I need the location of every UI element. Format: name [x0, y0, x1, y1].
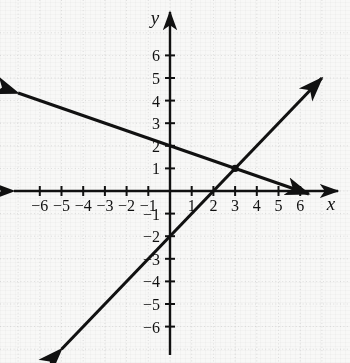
x-tick-label: 4	[253, 197, 261, 214]
x-tick-label: 5	[275, 197, 283, 214]
y-tick-label: 3	[152, 115, 160, 132]
y-tick-label: 2	[152, 138, 160, 155]
y-tick-labels: −6−5−4−3−2−1123456	[143, 47, 160, 335]
y-tick-label: 5	[152, 70, 160, 87]
y-tick-label: −6	[143, 319, 160, 336]
x-tick-label: −6	[31, 197, 48, 214]
x-tick-label: 3	[231, 197, 239, 214]
x-tick-label: 2	[209, 197, 217, 214]
labels-layer: −6−5−4−3−2−1123456 −6−5−4−3−2−1123456 x …	[0, 0, 350, 363]
x-tick-labels: −6−5−4−3−2−1123456	[31, 197, 304, 214]
x-tick-label: −2	[118, 197, 135, 214]
y-tick-label: −3	[143, 251, 160, 268]
y-tick-label: −5	[143, 296, 160, 313]
x-tick-label: −3	[96, 197, 113, 214]
y-axis-label: y	[149, 7, 160, 28]
y-tick-label: 4	[152, 93, 160, 110]
x-tick-label: −5	[53, 197, 70, 214]
coordinate-plane-graph: −6−5−4−3−2−1123456 −6−5−4−3−2−1123456 x …	[0, 0, 350, 363]
x-tick-label: 1	[188, 197, 196, 214]
x-tick-label: −4	[75, 197, 92, 214]
y-tick-label: −4	[143, 273, 160, 290]
y-tick-label: 1	[152, 160, 160, 177]
x-axis-label: x	[326, 193, 336, 214]
y-tick-label: 6	[152, 47, 160, 64]
y-tick-label: −2	[143, 228, 160, 245]
x-tick-label: 6	[296, 197, 304, 214]
y-tick-label: −1	[143, 206, 160, 223]
